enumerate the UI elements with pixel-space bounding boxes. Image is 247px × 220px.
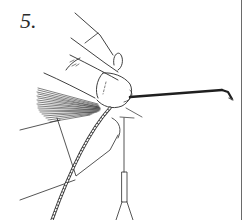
hook-shank <box>130 90 233 100</box>
hair-fiber-bundle <box>37 88 100 122</box>
illustration-canvas: 5. <box>0 0 247 220</box>
bobbin <box>116 118 133 220</box>
page-border <box>241 0 242 220</box>
lower-finger-outline <box>20 118 120 200</box>
finger-outline <box>44 13 132 108</box>
tying-thread <box>52 108 110 220</box>
fly-tying-drawing <box>0 0 247 220</box>
